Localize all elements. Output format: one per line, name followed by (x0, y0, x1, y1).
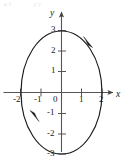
y-tick-label--2: -2 (47, 129, 55, 138)
arrowhead-clockwise-bottom (30, 111, 39, 122)
plot-canvas (0, 0, 130, 158)
y-tick-label--1: -1 (47, 108, 55, 117)
direction-arrow-lower-left (30, 111, 39, 122)
x-tick-label--1: -1 (34, 95, 42, 104)
x-tick-label--2: -2 (13, 95, 21, 104)
y-tick-label-1: 1 (51, 66, 56, 75)
x-axis-label: x (116, 90, 120, 100)
y-tick-label--3: -3 (47, 149, 55, 158)
origin-label: 0 (53, 95, 58, 104)
y-axis (58, 12, 66, 154)
y-axis-label: y (50, 9, 54, 19)
x-tick-label-1: 1 (79, 95, 84, 104)
x-tick-label-2: 2 (99, 95, 104, 104)
ellipse-figure: a 1 y y (0, 0, 130, 158)
y-tick-label-3: 3 (51, 25, 56, 34)
y-tick-label-2: 2 (51, 46, 56, 55)
